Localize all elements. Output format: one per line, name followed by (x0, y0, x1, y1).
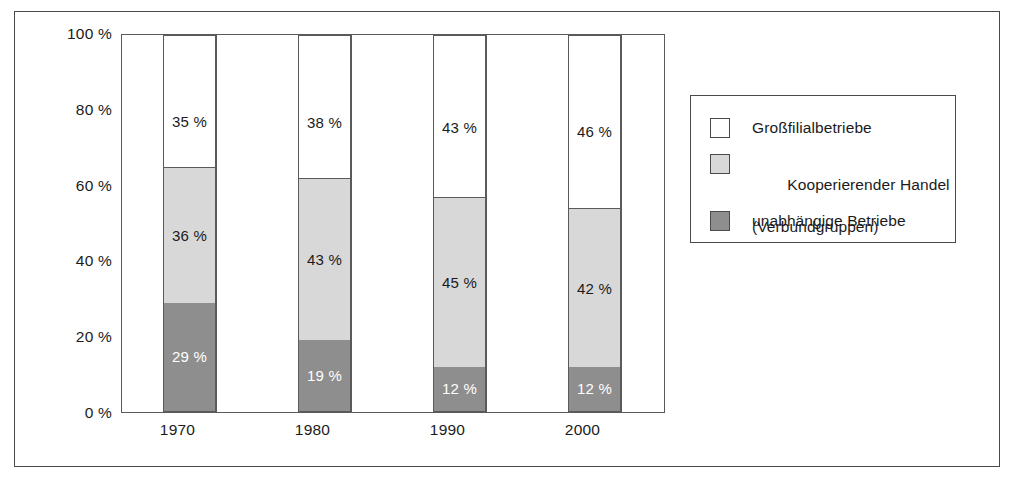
bar-1990-segment-unabhaengige-betriebe[interactable]: 12 % (433, 367, 486, 412)
bar-1980-segment-grossfilialbetriebe[interactable]: 38 % (298, 35, 351, 178)
x-tick-label-1990: 1990 (405, 421, 490, 439)
x-tick-label-1980: 1980 (270, 421, 355, 439)
bar-2000-segment-grossfilialbetriebe[interactable]: 46 % (568, 35, 621, 208)
bar-2000-label-kooperierender-handel: 42 % (577, 281, 612, 296)
chart-figure: 100 % 80 % 60 % 40 % 20 % 0 % 29 % 36 % … (0, 0, 1012, 479)
bar-1970-segment-grossfilialbetriebe[interactable]: 35 % (163, 35, 216, 167)
bar-2000-segment-kooperierender-handel[interactable]: 42 % (568, 208, 621, 366)
y-tick-label-80: 80 % (0, 101, 112, 119)
cell-divider-6 (486, 35, 487, 412)
bar-2000-segment-unabhaengige-betriebe[interactable]: 12 % (568, 367, 621, 412)
y-tick-label-20: 20 % (0, 328, 112, 346)
cell-divider-2 (216, 35, 217, 412)
bar-1980-label-kooperierender-handel: 43 % (307, 252, 342, 267)
y-tick-label-40: 40 % (0, 252, 112, 270)
bar-1990-segment-grossfilialbetriebe[interactable]: 43 % (433, 35, 486, 197)
legend-label-kooperierender-handel-line1: Kooperierender Handel (787, 176, 949, 193)
bar-1980-segment-unabhaengige-betriebe[interactable]: 19 % (298, 340, 351, 412)
bar-1990-label-unabhaengige-betriebe: 12 % (442, 381, 477, 396)
bar-1990-label-kooperierender-handel: 45 % (442, 275, 477, 290)
legend-label-grossfilialbetriebe: Großfilialbetriebe (752, 117, 872, 138)
y-axis: 100 % 80 % 60 % 40 % 20 % 0 % (0, 0, 121, 479)
bar-1980-label-grossfilialbetriebe: 38 % (307, 115, 342, 130)
bar-1980-segment-kooperierender-handel[interactable]: 43 % (298, 178, 351, 340)
bar-1990[interactable]: 12 % 45 % 43 % (433, 35, 486, 412)
bar-1990-label-grossfilialbetriebe: 43 % (442, 120, 477, 135)
bar-1970-label-grossfilialbetriebe: 35 % (172, 114, 207, 129)
bar-1970-segment-unabhaengige-betriebe[interactable]: 29 % (163, 303, 216, 412)
legend-swatch-white-icon (710, 118, 730, 138)
bar-1970-label-kooperierender-handel: 36 % (172, 228, 207, 243)
cell-divider-4 (351, 35, 352, 412)
x-tick-label-1970: 1970 (135, 421, 220, 439)
y-tick-label-100: 100 % (0, 25, 112, 43)
bar-1970-label-unabhaengige-betriebe: 29 % (172, 349, 207, 364)
x-tick-label-2000: 2000 (540, 421, 625, 439)
legend-item-grossfilialbetriebe[interactable]: Großfilialbetriebe (710, 117, 872, 138)
legend-label-unabhaengige-betriebe: unabhängige Betriebe (752, 210, 906, 231)
bar-2000[interactable]: 12 % 42 % 46 % (568, 35, 621, 412)
bar-1970[interactable]: 29 % 36 % 35 % (163, 35, 216, 412)
legend-swatch-light-gray-icon (710, 154, 730, 174)
y-tick-label-60: 60 % (0, 177, 112, 195)
bar-1980[interactable]: 19 % 43 % 38 % (298, 35, 351, 412)
y-tick-label-0: 0 % (0, 404, 112, 422)
plot-area: 29 % 36 % 35 % 19 % 43 % 38 % 12 % (121, 34, 665, 413)
cell-divider-8 (621, 35, 622, 412)
bar-1980-label-unabhaengige-betriebe: 19 % (307, 368, 342, 383)
bar-1990-segment-kooperierender-handel[interactable]: 45 % (433, 197, 486, 367)
legend-item-unabhaengige-betriebe[interactable]: unabhängige Betriebe (710, 210, 906, 231)
bar-2000-label-unabhaengige-betriebe: 12 % (577, 381, 612, 396)
legend-swatch-dark-gray-icon (710, 211, 730, 231)
bar-2000-label-grossfilialbetriebe: 46 % (577, 124, 612, 139)
legend: Großfilialbetriebe Kooperierender Handel… (690, 95, 956, 243)
bar-1970-segment-kooperierender-handel[interactable]: 36 % (163, 167, 216, 303)
